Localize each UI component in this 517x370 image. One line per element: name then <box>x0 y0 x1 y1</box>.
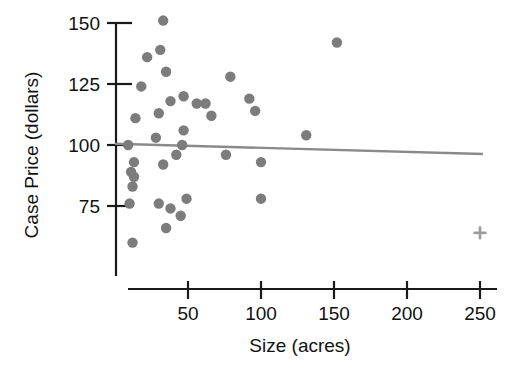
y-tick-label-150: 150 <box>68 13 100 34</box>
y-tick-label-100: 100 <box>68 135 100 156</box>
data-point <box>200 98 210 108</box>
data-point <box>155 45 165 55</box>
x-axis-group: 50 100 150 200 250 Size (acres) <box>128 281 497 356</box>
plot-canvas: 150 125 100 75 Case Price (dollars) 50 1… <box>0 0 517 370</box>
outlier-marker-layer <box>474 226 487 239</box>
x-tick-label-150: 150 <box>318 303 350 324</box>
scatter-plot-figure: 150 125 100 75 Case Price (dollars) 50 1… <box>0 0 517 370</box>
data-point <box>124 198 134 208</box>
data-point <box>154 108 164 118</box>
data-point <box>158 15 168 25</box>
data-points-layer <box>123 15 342 247</box>
data-point <box>178 91 188 101</box>
data-point <box>161 67 171 77</box>
data-point <box>127 181 137 191</box>
data-point <box>161 223 171 233</box>
data-point <box>171 150 181 160</box>
y-tick-label-125: 125 <box>68 74 100 95</box>
regression-line <box>115 144 483 154</box>
data-point <box>130 113 140 123</box>
data-point <box>250 106 260 116</box>
data-point <box>142 52 152 62</box>
x-tick-label-250: 250 <box>464 303 496 324</box>
data-point <box>136 81 146 91</box>
data-point <box>221 150 231 160</box>
data-point <box>151 132 161 142</box>
x-tick-label-50: 50 <box>177 303 198 324</box>
data-point <box>178 125 188 135</box>
data-point <box>165 96 175 106</box>
data-point <box>244 93 254 103</box>
y-tick-label-75: 75 <box>79 196 100 217</box>
data-point <box>332 37 342 47</box>
x-tick-label-100: 100 <box>245 303 277 324</box>
data-point <box>177 140 187 150</box>
data-point <box>256 157 266 167</box>
y-axis-title: Case Price (dollars) <box>21 72 42 239</box>
data-point <box>181 193 191 203</box>
data-point <box>165 203 175 213</box>
data-point <box>225 71 235 81</box>
data-point <box>206 111 216 121</box>
data-point <box>301 130 311 140</box>
data-point <box>129 157 139 167</box>
data-point <box>129 172 139 182</box>
data-point <box>154 198 164 208</box>
data-point <box>127 237 137 247</box>
data-point <box>256 193 266 203</box>
x-axis-title: Size (acres) <box>249 335 350 356</box>
x-tick-label-200: 200 <box>391 303 423 324</box>
data-point <box>123 140 133 150</box>
data-point <box>158 159 168 169</box>
data-point <box>176 211 186 221</box>
